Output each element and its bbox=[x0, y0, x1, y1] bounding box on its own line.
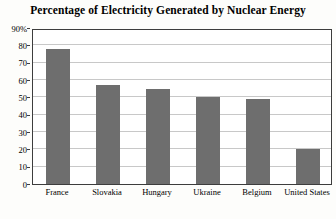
gridline bbox=[33, 62, 331, 63]
x-axis-tick-label: Hungary bbox=[132, 187, 182, 198]
x-axis-tick-label: France bbox=[32, 187, 82, 198]
gridline bbox=[33, 131, 331, 132]
bar bbox=[196, 97, 220, 184]
y-axis-tick-mark bbox=[27, 28, 30, 29]
bar bbox=[146, 89, 170, 184]
y-axis-tick-label: 70 bbox=[19, 59, 28, 68]
y-axis-tick-mark bbox=[27, 115, 30, 116]
gridline bbox=[33, 148, 331, 149]
x-axis-tick-label: United States bbox=[282, 187, 332, 198]
bar-chart: Percentage of Electricity Generated by N… bbox=[0, 0, 336, 219]
y-axis-tick-label: 20 bbox=[19, 146, 28, 155]
gridline bbox=[33, 44, 331, 45]
gridline bbox=[33, 166, 331, 167]
y-axis-tick-mark bbox=[27, 63, 30, 64]
y-axis-tick-label: 50 bbox=[19, 94, 28, 103]
x-axis-tick-label: Slovakia bbox=[82, 187, 132, 198]
gridline bbox=[33, 79, 331, 80]
y-axis-tick-label: 80 bbox=[19, 42, 28, 51]
y-axis-tick-label: 30 bbox=[19, 129, 28, 138]
gridline bbox=[33, 114, 331, 115]
y-axis-tick-mark bbox=[27, 132, 30, 133]
y-axis-tick-label: 0 bbox=[23, 181, 27, 190]
bar bbox=[96, 85, 120, 184]
y-axis-tick-label: 10 bbox=[19, 163, 28, 172]
plot-area bbox=[32, 29, 332, 185]
y-axis-tick-label: 40 bbox=[19, 111, 28, 120]
x-axis-tick-label: Ukraine bbox=[182, 187, 232, 198]
x-axis: FranceSlovakiaHungaryUkraineBelgiumUnite… bbox=[32, 187, 332, 217]
gridline bbox=[33, 96, 331, 97]
y-axis-tick-mark bbox=[27, 149, 30, 150]
chart-title: Percentage of Electricity Generated by N… bbox=[0, 4, 336, 16]
y-axis-tick-mark bbox=[27, 97, 30, 98]
bar bbox=[296, 149, 320, 184]
y-axis-tick-mark bbox=[27, 45, 30, 46]
y-axis-tick-mark bbox=[27, 184, 30, 185]
y-axis: 0102030405060708090% bbox=[0, 29, 30, 185]
y-axis-tick-label: 60 bbox=[19, 77, 28, 86]
y-axis-tick-mark bbox=[27, 167, 30, 168]
bar bbox=[246, 99, 270, 184]
y-axis-tick-mark bbox=[27, 80, 30, 81]
y-axis-tick-label: 90% bbox=[11, 25, 27, 34]
bar bbox=[46, 49, 70, 184]
x-axis-tick-label: Belgium bbox=[232, 187, 282, 198]
